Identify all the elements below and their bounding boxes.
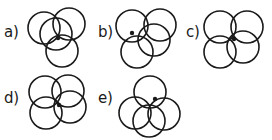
circle-diagram-e — [118, 73, 180, 135]
circle-diagram-c — [201, 7, 263, 69]
panel-label-d: d) — [4, 91, 19, 106]
circle-diagram-a — [26, 6, 88, 68]
circle-diagram-d — [26, 73, 88, 135]
marked-point-c — [232, 37, 236, 41]
panel-label-c: c) — [186, 25, 200, 40]
circles-svg-e — [118, 73, 180, 135]
circles-svg-c — [201, 7, 263, 69]
circle-outline-a-4 — [46, 35, 78, 67]
panel-label-b: b) — [98, 25, 113, 40]
circle-outline-c-3 — [204, 36, 236, 68]
circles-svg-d — [26, 73, 88, 135]
panel-label-e: e) — [98, 91, 113, 106]
circle-outline-e-1 — [134, 76, 166, 108]
circles-svg-a — [26, 6, 88, 68]
marked-point-a — [56, 36, 60, 40]
marked-point-d — [57, 103, 61, 107]
marked-point-b — [130, 31, 134, 35]
panel-label-a: a) — [4, 25, 19, 40]
marked-point-e — [153, 97, 157, 101]
circle-outline-d-3 — [30, 97, 62, 129]
circles-svg-b — [112, 7, 174, 69]
figure-root: a)b)c)d)e) — [0, 0, 272, 140]
circle-outline-c-4 — [227, 31, 259, 63]
circle-diagram-b — [112, 7, 174, 69]
